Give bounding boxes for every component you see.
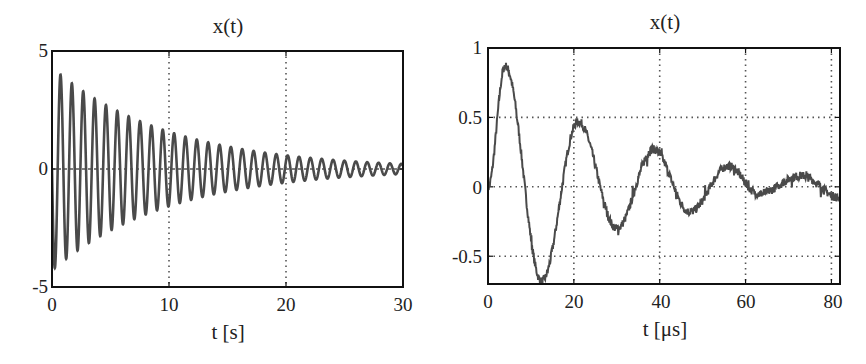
right-plot-area — [430, 0, 866, 364]
right-chart: x(t) 1 0.5 0 -0.5 0 20 40 60 80 t [μs] — [430, 0, 866, 364]
left-xtick-10: 10 — [160, 294, 179, 316]
right-ytick-1: 1 — [473, 37, 483, 59]
left-ytick-5: 5 — [39, 40, 49, 62]
left-plot-area — [0, 0, 430, 364]
right-xtick-60: 60 — [737, 291, 756, 313]
left-xtick-0: 0 — [47, 294, 57, 316]
right-x-axis-label: t [μs] — [643, 317, 688, 342]
left-xtick-20: 20 — [277, 294, 296, 316]
left-chart: x(t) 5 0 -5 0 10 20 30 t [s] — [0, 0, 430, 364]
right-ytick-neg0-5: -0.5 — [452, 246, 482, 268]
right-xtick-80: 80 — [824, 291, 843, 313]
left-xtick-30: 30 — [394, 294, 413, 316]
right-xtick-40: 40 — [652, 291, 671, 313]
left-x-axis-label: t [s] — [211, 320, 244, 345]
right-chart-title: x(t) — [650, 10, 680, 35]
right-ytick-0: 0 — [473, 177, 483, 199]
right-xtick-20: 20 — [565, 291, 584, 313]
left-ytick-0: 0 — [39, 158, 49, 180]
right-ytick-0-5: 0.5 — [458, 107, 482, 129]
left-chart-title: x(t) — [213, 14, 243, 39]
left-ytick-neg5: -5 — [32, 276, 48, 298]
right-xtick-0: 0 — [483, 291, 493, 313]
